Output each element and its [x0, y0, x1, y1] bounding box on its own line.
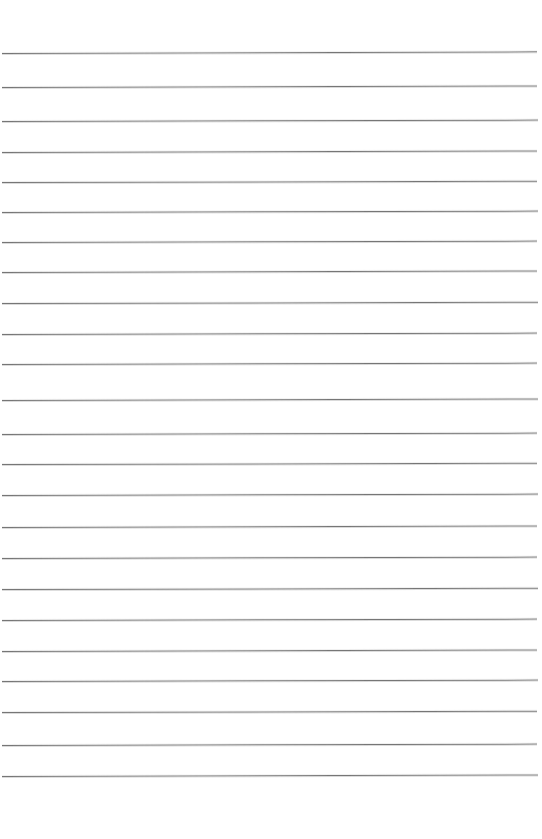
rule-line	[2, 271, 537, 273]
rule-line	[2, 557, 537, 559]
rule-line	[2, 363, 537, 365]
rule-line	[2, 494, 538, 496]
rule-line	[2, 744, 537, 746]
rule-line	[2, 680, 538, 682]
rule-line	[2, 181, 537, 183]
top-margin-area	[0, 0, 542, 53]
rule-line	[2, 302, 538, 304]
rule-line	[2, 619, 537, 621]
rule-line	[2, 433, 537, 435]
rule-line	[2, 588, 538, 590]
rule-line	[2, 526, 537, 528]
rule-line	[2, 399, 538, 401]
rule-line	[2, 211, 538, 213]
rule-line	[2, 86, 537, 88]
lined-paper-page	[0, 0, 542, 839]
rule-line	[2, 463, 537, 465]
paper-sheet	[0, 0, 542, 839]
bottom-margin-area	[0, 776, 542, 839]
rule-line	[2, 650, 537, 652]
rule-line	[2, 711, 537, 713]
rule-line	[2, 120, 538, 122]
rule-line	[2, 51, 537, 54]
rule-line	[2, 241, 537, 243]
rule-line	[2, 151, 537, 153]
rule-line	[2, 333, 537, 335]
